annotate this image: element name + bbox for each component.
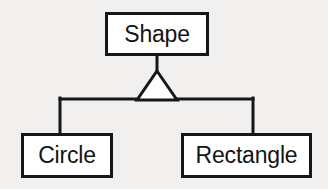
class-box-shape[interactable]: Shape — [105, 12, 209, 56]
class-name-rectangle: Rectangle — [196, 144, 298, 167]
inheritance-arrowhead-icon — [137, 71, 177, 100]
class-name-circle: Circle — [38, 144, 96, 167]
class-box-circle[interactable]: Circle — [21, 133, 113, 178]
class-name-shape: Shape — [124, 23, 190, 46]
uml-class-diagram: Shape Circle Rectangle — [0, 0, 328, 189]
class-box-rectangle[interactable]: Rectangle — [181, 133, 312, 178]
